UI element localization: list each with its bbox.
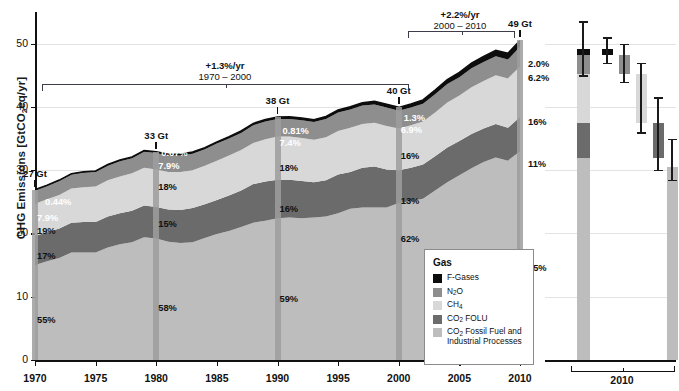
share-label-1970-ch4: 19% <box>37 226 56 236</box>
error-bar-total-2010-stacked <box>582 21 583 75</box>
share-label-2010-co2-folu: 11% <box>528 159 546 169</box>
share-label-2010-n2o: 6.2% <box>528 73 549 83</box>
y-tick-label-20: 20 <box>4 226 28 238</box>
share-label-1980-f-gases: 0.67% <box>161 148 187 158</box>
callout-tick-2000 <box>398 97 400 104</box>
callout-label-1980: 33 Gt <box>144 130 168 141</box>
error-cap-high-co2-ff-2010 <box>668 139 677 140</box>
y-tick-label-40: 40 <box>4 100 28 112</box>
share-label-2000-ch4: 16% <box>401 151 420 161</box>
callout-label-1970: 27 Gt <box>23 168 47 179</box>
callout-tick-2010 <box>519 30 521 37</box>
share-label-1970-n2o: 7.9% <box>37 213 58 223</box>
right-bar-segment-co2-folu <box>577 123 590 157</box>
error-cap-low-n2o-2010 <box>620 82 629 83</box>
error-bar-co2-ff-2010 <box>671 139 672 180</box>
callout-tick-1980 <box>155 142 157 149</box>
gridline-right-50 <box>545 44 676 45</box>
share-label-2010-f-gases: 2.0% <box>528 59 549 69</box>
right-bar-segment-co2-fossil-fuel-and-industrial-processes <box>577 158 590 361</box>
error-cap-low-ch4-2010 <box>637 132 646 133</box>
x-tick-mark-1995 <box>338 362 339 366</box>
callout-tick-1970 <box>34 180 36 187</box>
growth-rate-1: +1.3%/yr <box>145 60 305 71</box>
share-label-2000-co2-folu: 13% <box>401 196 420 206</box>
x-tick-mark-1975 <box>96 362 97 366</box>
right-bar-body-co2-ff-2010 <box>667 167 678 360</box>
legend: Gas F-GasesN2OCH4CO2 FOLUCO2 Fossil Fuel… <box>424 249 534 365</box>
legend-item-f-gases[interactable]: F-Gases <box>433 273 525 283</box>
legend-label-co2-ff: CO2 Fossil Fuel and Industrial Processes <box>447 327 525 346</box>
legend-item-co2-folu[interactable]: CO2 FOLU <box>433 314 525 324</box>
error-bar-ch4-2010 <box>640 63 641 133</box>
callout-label-1990: 38 Gt <box>266 95 290 106</box>
share-label-1990-co2-folu: 16% <box>280 204 299 214</box>
x-tick-label-1975: 1975 <box>73 372 119 384</box>
error-cap-low-total-2010-stacked <box>579 75 588 76</box>
ghg-emissions-chart: GHG Emissions [GtCO2eq/yr] 01020304050 2… <box>0 0 679 391</box>
share-label-2000-n2o: 6.9% <box>401 125 422 135</box>
x-tick-label-1995: 1995 <box>315 372 361 384</box>
error-bar-co2-folu-2010 <box>657 97 658 170</box>
growth-period-2: 2000 – 2010 <box>380 20 540 31</box>
x-tick-label-1970: 1970 <box>12 372 58 384</box>
right-panel-x-axis-line <box>545 360 676 362</box>
x-tick-label-1985: 1985 <box>194 372 240 384</box>
error-bar-f-gases-2010 <box>606 37 607 62</box>
error-cap-low-co2-ff-2010 <box>668 180 677 181</box>
legend-swatch-icon-n2o <box>433 288 442 297</box>
share-label-1980-n2o: 7.9% <box>158 161 179 171</box>
error-bar-n2o-2010 <box>623 44 624 82</box>
share-label-1970-co2-ff: 55% <box>37 315 56 325</box>
x-tick-label-2010: 2010 <box>497 372 543 384</box>
gridline-right-10 <box>545 297 676 298</box>
share-label-2000-co2-ff: 62% <box>401 234 420 244</box>
error-cap-high-ch4-2010 <box>637 63 646 64</box>
x-tick-label-1990: 1990 <box>255 372 301 384</box>
callout-tick-1990 <box>277 107 279 114</box>
share-label-1990-f-gases: 0.81% <box>283 126 309 136</box>
x-tick-label-2005: 2005 <box>436 372 482 384</box>
share-label-1990-ch4: 18% <box>280 163 299 173</box>
legend-swatch-icon-co2-folu <box>433 315 442 324</box>
legend-item-co2-ff[interactable]: CO2 Fossil Fuel and Industrial Processes <box>433 327 525 346</box>
right-panel-bracket <box>571 366 675 372</box>
error-cap-high-co2-folu-2010 <box>654 97 663 98</box>
legend-label-ch4: CH4 <box>447 300 463 310</box>
share-label-1980-co2-ff: 58% <box>158 303 177 313</box>
share-label-1990-n2o: 7.4% <box>280 138 301 148</box>
error-cap-high-total-2010-stacked <box>579 21 588 22</box>
share-label-1980-co2-folu: 15% <box>158 219 177 229</box>
legend-swatch-icon-ch4 <box>433 301 442 310</box>
share-label-1980-ch4: 18% <box>158 182 177 192</box>
gridline-right-40 <box>545 107 676 108</box>
callout-1990: 38 Gt <box>248 95 308 114</box>
callout-1980: 33 Gt <box>126 130 186 149</box>
error-cap-high-n2o-2010 <box>620 44 629 45</box>
y-tick-label-50: 50 <box>4 37 28 49</box>
legend-item-ch4[interactable]: CH4 <box>433 300 525 310</box>
error-cap-high-f-gases-2010 <box>603 37 612 38</box>
growth-rate-2: +2.2%/yr <box>380 9 540 20</box>
legend-title: Gas <box>433 257 525 268</box>
error-cap-low-co2-folu-2010 <box>654 170 663 171</box>
growth-bracket-2000-2010 <box>408 31 515 38</box>
legend-swatch-icon-co2-ff <box>433 328 442 337</box>
x-tick-mark-1970 <box>35 362 36 366</box>
growth-bracket-1970-2000 <box>42 84 409 91</box>
x-tick-mark-1980 <box>156 362 157 366</box>
callout-1970: 27 Gt <box>5 168 65 187</box>
legend-item-n2o[interactable]: N2O <box>433 287 525 297</box>
legend-label-co2-folu: CO2 FOLU <box>447 314 487 324</box>
right-bar-segment-ch4 <box>577 74 590 123</box>
share-label-2010-ch4: 16% <box>528 117 547 127</box>
year-marker-1990 <box>275 117 281 360</box>
x-tick-mark-1990 <box>278 362 279 366</box>
growth-bracket-2000-2010-label: +2.2%/yr 2000 – 2010 <box>380 9 540 31</box>
x-tick-mark-2000 <box>399 362 400 366</box>
right-panel-group-label: 2010 <box>571 374 673 386</box>
legend-label-f-gases: F-Gases <box>447 273 479 283</box>
share-label-1970-co2-folu: 17% <box>37 251 56 261</box>
y-tick-label-0: 0 <box>4 353 28 365</box>
y-tick-label-10: 10 <box>4 290 28 302</box>
